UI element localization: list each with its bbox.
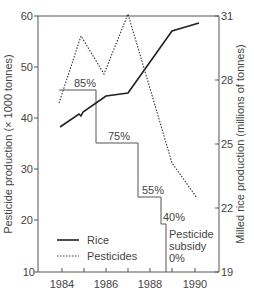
y2-tick-25: 25 [221,138,233,150]
right-y-tick-labels: 31 28 25 22 19 [221,10,233,278]
y2-tick-31: 31 [221,10,233,22]
rice-line [60,23,199,127]
subsidy-0-label: 0% [169,252,185,264]
x-tick-1990: 1990 [183,278,207,290]
right-y-ticks [215,16,219,272]
x-tick-labels: 1984 1986 1988 1990 [50,278,207,290]
legend-rice-label: Rice [87,234,109,246]
left-y-tick-labels: 60 50 40 30 20 10 [21,10,35,278]
subsidy-85-label: 85% [74,77,96,89]
y-tick-20: 20 [21,214,33,226]
y2-tick-28: 28 [221,74,233,86]
x-tick-1984: 1984 [50,278,74,290]
legend: Rice Pesticides [57,234,138,262]
x-tick-1988: 1988 [138,278,162,290]
y2-axis-title: Milled rice production (millions of tonn… [234,44,246,243]
pesticides-line [59,14,197,198]
x-tick-1986: 1986 [94,278,118,290]
left-y-ticks [34,16,38,272]
y-tick-30: 30 [21,163,33,175]
legend-pesticides-label: Pesticides [87,250,138,262]
x-ticks [62,268,195,272]
y-tick-40: 40 [21,112,33,124]
subsidy-55-label: 55% [142,184,164,196]
y-tick-10: 10 [23,266,35,278]
y-axis-title: Pesticide production (× 1000 tonnes) [2,54,14,233]
subsidy-title-line2: subsidy [169,240,207,252]
y2-tick-22: 22 [221,202,233,214]
y-tick-60: 60 [21,10,33,22]
subsidy-title-line1: Pesticide [169,228,214,240]
y2-tick-19: 19 [221,266,233,278]
subsidy-75-label: 75% [108,130,130,142]
subsidy-40-label: 40% [163,211,185,223]
chart: 60 50 40 30 20 10 31 28 25 22 19 1984 19… [0,0,254,298]
y-tick-50: 50 [21,61,33,73]
